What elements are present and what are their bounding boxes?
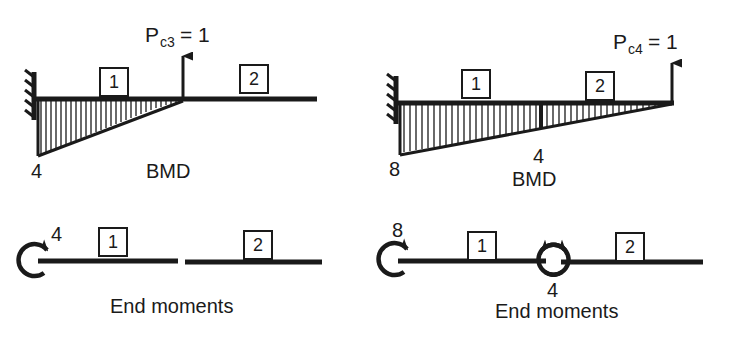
- panel-bmd-left: P c3 = 1: [25, 23, 317, 182]
- segment-box-1-endmoments-left-label: 1: [108, 232, 118, 252]
- segment-box-2-endmoments-left-label: 2: [253, 235, 263, 255]
- load-label-left: P c3 = 1: [145, 23, 210, 50]
- load-equals: = 1: [180, 23, 210, 46]
- load-symbol: P: [145, 23, 159, 46]
- moment-value-4-left: 4: [51, 223, 62, 245]
- segment-box-2-right: 2: [586, 72, 614, 100]
- segment-box-1-left-label: 1: [109, 72, 119, 92]
- segment-box-2-endmoments-right-label: 2: [625, 237, 635, 257]
- structural-diagram-figure: P c3 = 1: [0, 0, 730, 346]
- caption-bmd-left: BMD: [146, 160, 190, 182]
- ordinate-value-4-right: 4: [533, 145, 544, 167]
- load-symbol-right: P: [613, 30, 627, 53]
- fixed-support-left: [25, 70, 34, 120]
- moment-value-8-right: 8: [392, 219, 403, 241]
- load-subscript-right: c4: [628, 41, 643, 57]
- segment-box-1-endmoments-left: 1: [99, 228, 127, 256]
- load-subscript: c3: [160, 34, 175, 50]
- caption-endmoments-right: End moments: [495, 300, 618, 322]
- panel-endmoments-left: 4 1 2 End moments: [19, 223, 322, 317]
- ordinate-value-4-left: 4: [31, 160, 42, 182]
- segment-box-1-right-label: 1: [471, 74, 481, 94]
- segment-box-2-left: 2: [240, 65, 268, 93]
- segment-box-2-endmoments-left: 2: [244, 231, 272, 259]
- segment-box-2-left-label: 2: [249, 69, 259, 89]
- segment-box-1-endmoments-right: 1: [468, 232, 496, 260]
- segment-box-2-right-label: 2: [595, 76, 605, 96]
- bmd-area-left: [38, 100, 183, 156]
- segment-box-1-left: 1: [100, 68, 128, 96]
- moment-value-4-right: 4: [547, 279, 558, 301]
- ordinate-value-8-right: 8: [389, 158, 400, 180]
- caption-endmoments-left: End moments: [110, 295, 233, 317]
- figure-root: P c3 = 1: [0, 0, 730, 346]
- segment-box-1-endmoments-right-label: 1: [477, 236, 487, 256]
- segment-box-2-endmoments-right: 2: [616, 233, 644, 261]
- caption-bmd-right: BMD: [512, 168, 556, 190]
- load-label-right: P c4 = 1: [613, 30, 678, 57]
- panel-endmoments-right: 8 4 1 2 End moments: [379, 219, 703, 322]
- load-equals-right: = 1: [648, 30, 678, 53]
- fixed-support-right: [387, 74, 396, 124]
- panel-bmd-right: P c4 = 1: [387, 30, 678, 190]
- segment-box-1-right: 1: [462, 70, 490, 98]
